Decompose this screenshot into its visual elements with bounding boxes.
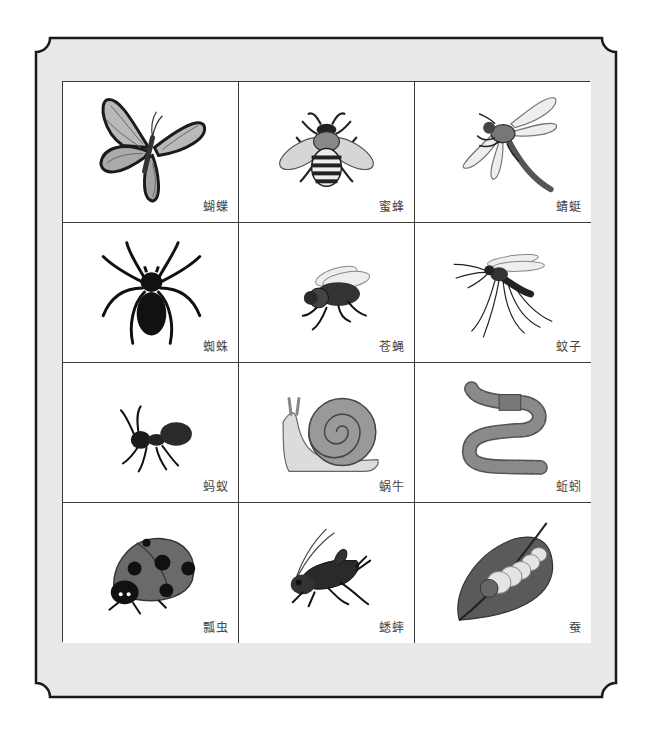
creature-grid: 蝴蝶 蜜蜂 — [62, 81, 590, 642]
creature-label: 蚂蚁 — [203, 477, 229, 494]
card-silkworm[interactable]: 蚕 — [415, 503, 591, 643]
creature-label: 蜜蜂 — [379, 197, 405, 214]
creature-label: 蚊子 — [556, 337, 582, 354]
card-bee[interactable]: 蜜蜂 — [239, 82, 415, 223]
card-cricket[interactable]: 蟋蟀 — [239, 503, 415, 643]
creature-label: 蚯蚓 — [556, 477, 582, 494]
card-spider[interactable]: 蜘蛛 — [63, 223, 239, 363]
card-ant[interactable]: 蚂蚁 — [63, 363, 239, 503]
silkworm-icon — [415, 503, 591, 643]
creature-label: 蜗牛 — [379, 477, 405, 494]
creature-label: 蝴蝶 — [203, 197, 229, 214]
card-snail[interactable]: 蜗牛 — [239, 363, 415, 503]
card-fly[interactable]: 苍蝇 — [239, 223, 415, 363]
card-ladybug[interactable]: 瓢虫 — [63, 503, 239, 643]
creature-label: 蜻蜓 — [556, 197, 582, 214]
creature-label: 蟋蟀 — [379, 618, 405, 635]
card-mosquito[interactable]: 蚊子 — [415, 223, 591, 363]
creature-label: 瓢虫 — [203, 618, 229, 635]
card-earthworm[interactable]: 蚯蚓 — [415, 363, 591, 503]
card-dragonfly[interactable]: 蜻蜓 — [415, 82, 591, 223]
card-butterfly[interactable]: 蝴蝶 — [63, 82, 239, 223]
creature-label: 蜘蛛 — [203, 337, 229, 354]
creature-label: 苍蝇 — [379, 337, 405, 354]
creature-label: 蚕 — [569, 618, 582, 635]
